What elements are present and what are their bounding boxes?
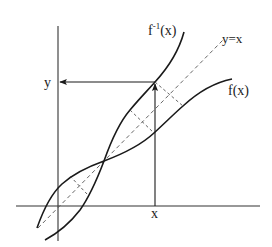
reflection-segment-middle [130,110,154,133]
inverse-function-diagram: f-1(x) y=x f(x) y x [0,0,272,247]
x-value-label: x [151,206,158,221]
inverse-curve-label: f-1(x) [148,21,177,39]
identity-line-label: y=x [222,31,243,46]
reflection-segment-upper [155,82,183,106]
identity-line [38,40,223,228]
reflection-segment-lower [70,176,87,194]
inverse-function-curve [45,32,184,240]
function-curve-label: f(x) [228,83,249,99]
y-value-label: y [44,75,51,90]
